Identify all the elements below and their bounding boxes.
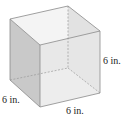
depth-label: 6 in. <box>2 94 20 105</box>
height-label: 6 in. <box>103 55 121 66</box>
width-label: 6 in. <box>66 105 84 116</box>
cube-diagram: 6 in. 6 in. 6 in. <box>0 0 123 119</box>
